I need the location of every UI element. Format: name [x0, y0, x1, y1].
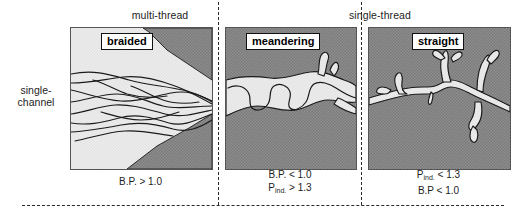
figure-canvas: multi-thread single-thread single- chann… — [0, 0, 522, 223]
caption-straight-subscript: ind. — [424, 174, 435, 181]
caption-straight-value: < 1.3 — [435, 169, 460, 180]
vertical-separator-right — [361, 2, 362, 205]
caption-braided: B.P. > 1.0 — [70, 175, 211, 188]
horizontal-separator-bottom — [22, 205, 504, 206]
caption-meandering-line-1: B.P. < 1.0 — [225, 168, 355, 181]
panel-plaque-meandering: meandering — [246, 33, 320, 50]
caption-straight: Pind. < 1.3 B.P < 1.0 — [368, 168, 509, 197]
row-label-line-2: channel — [4, 96, 68, 108]
row-label-single-channel: single- channel — [4, 84, 68, 108]
row-label-line-1: single- — [4, 84, 68, 96]
caption-meandering-line-2: Pind. > 1.3 — [225, 181, 355, 197]
caption-braided-line-1: B.P. > 1.0 — [70, 175, 211, 188]
caption-meandering-subscript: ind. — [275, 187, 286, 194]
caption-straight-line-1: Pind. < 1.3 — [368, 168, 509, 184]
panel-plaque-braided: braided — [101, 33, 153, 50]
caption-meandering: B.P. < 1.0 Pind. > 1.3 — [225, 168, 355, 197]
panel-plaque-straight: straight — [412, 33, 464, 50]
caption-straight-symbol: P — [417, 169, 424, 180]
group-header-single-thread: single-thread — [251, 9, 509, 21]
group-header-multi-thread: multi-thread — [86, 9, 234, 21]
caption-meandering-value: > 1.3 — [286, 182, 311, 193]
caption-straight-line-2: B.P < 1.0 — [368, 184, 509, 197]
vertical-separator-left — [218, 2, 219, 205]
